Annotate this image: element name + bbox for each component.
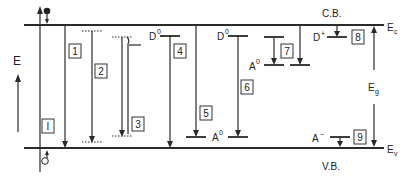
svg-text:0: 0 (256, 58, 260, 65)
svg-text:I: I (47, 121, 50, 132)
acceptor-level-label: A (212, 132, 219, 143)
svg-text:0: 0 (225, 28, 229, 35)
transition-4: D 0 4 (149, 28, 186, 148)
excitation-arrowhead-icon (37, 6, 43, 14)
svg-text:3: 3 (135, 119, 141, 130)
energy-axis: E (13, 54, 21, 132)
band-diagram: E C.B. V.B. E c E v E g I 1 (0, 0, 409, 176)
complex-brace (127, 37, 129, 134)
svg-text:g: g (375, 88, 379, 96)
arrowhead-icon (235, 130, 241, 137)
transition-8: D + 8 (313, 25, 364, 44)
energy-axis-label: E (13, 54, 21, 68)
svg-text:0: 0 (157, 28, 161, 35)
hole-icon (42, 158, 49, 165)
arrowhead-icon (62, 141, 68, 148)
electron-icon (44, 8, 51, 15)
valence-edge-label: E v (387, 144, 398, 157)
arrowhead-icon (297, 58, 303, 65)
transition-9: A − 9 (312, 130, 366, 147)
transition-1: 1 (62, 25, 81, 148)
valence-band-label: V.B. (322, 161, 340, 172)
svg-text:1: 1 (72, 46, 78, 57)
transition-6: D 0 6 (217, 28, 253, 137)
svg-text:E: E (368, 82, 375, 93)
arrowhead-icon (271, 58, 277, 65)
acceptor-level-label: A (249, 61, 256, 72)
svg-text:c: c (394, 28, 398, 35)
svg-text:9: 9 (357, 132, 363, 143)
transition-5: 5 A 0 (186, 25, 223, 143)
svg-text:7: 7 (284, 46, 290, 57)
ionized-donor-label: D (313, 32, 320, 43)
donor-level-label: D (217, 31, 224, 42)
gap-arrowhead-up-icon (371, 26, 377, 33)
svg-text:E: E (387, 144, 394, 155)
svg-text:E: E (387, 22, 394, 33)
donor-level-label: D (149, 31, 156, 42)
energy-axis-arrowhead-icon (15, 74, 21, 82)
arrowhead-icon (337, 141, 343, 147)
svg-text:5: 5 (203, 108, 209, 119)
svg-text:−: − (320, 131, 324, 138)
svg-text:0: 0 (219, 129, 223, 136)
arrowhead-icon (193, 130, 199, 137)
band-gap-indicator: E g (368, 26, 379, 147)
svg-text:+: + (321, 30, 325, 37)
svg-text:8: 8 (355, 32, 361, 43)
transition-3: 3 (112, 37, 144, 137)
gap-arrowhead-down-icon (371, 140, 377, 147)
ionized-acceptor-label: A (312, 133, 319, 144)
transition-2: 2 (82, 31, 107, 143)
arrowhead-icon (167, 141, 173, 148)
conduction-edge-label: E c (387, 22, 398, 35)
svg-text:2: 2 (98, 66, 104, 77)
svg-text:v: v (394, 150, 398, 157)
svg-text:4: 4 (177, 46, 183, 57)
svg-text:6: 6 (244, 82, 250, 93)
transition-7: A 0 7 (249, 25, 310, 72)
conduction-band-label: C.B. (322, 8, 341, 19)
